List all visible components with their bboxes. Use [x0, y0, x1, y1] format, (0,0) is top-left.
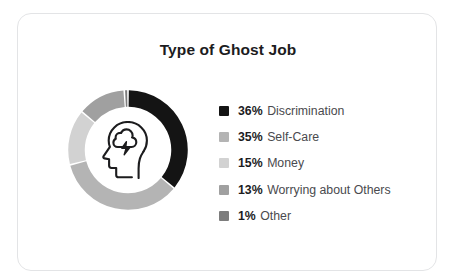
legend-percent: 13% [238, 183, 263, 197]
chart-card: Type of Ghost Job 36%Discrimination35%Se… [17, 13, 437, 271]
legend-item: 1%Other [219, 203, 434, 229]
legend-swatch [219, 211, 229, 221]
legend-item: 35%Self-Care [219, 124, 434, 150]
page-title: Type of Ghost Job [18, 41, 438, 59]
donut-slice [68, 113, 94, 164]
donut-slice [125, 90, 127, 107]
legend-label: Other [260, 209, 291, 223]
legend-label: Money [267, 156, 304, 170]
legend-swatch [219, 185, 229, 195]
legend-percent: 36% [238, 104, 263, 118]
legend-swatch [219, 132, 229, 142]
legend-swatch [219, 158, 229, 168]
legend-label: Self-Care [267, 130, 319, 144]
head-with-brainstorm-icon [98, 121, 158, 179]
legend-percent: 1% [238, 209, 256, 223]
legend-swatch [219, 106, 229, 116]
donut-slice [82, 90, 124, 122]
legend-percent: 35% [238, 130, 263, 144]
donut-chart [65, 87, 191, 213]
legend-item: 36%Discrimination [219, 98, 434, 124]
legend-item: 15%Money [219, 150, 434, 176]
legend-label: Worrying about Others [267, 183, 390, 197]
legend-label: Discrimination [267, 104, 344, 118]
legend-percent: 15% [238, 156, 263, 170]
chart-legend: 36%Discrimination35%Self-Care15%Money13%… [219, 98, 434, 229]
legend-item: 13%Worrying about Others [219, 177, 434, 203]
